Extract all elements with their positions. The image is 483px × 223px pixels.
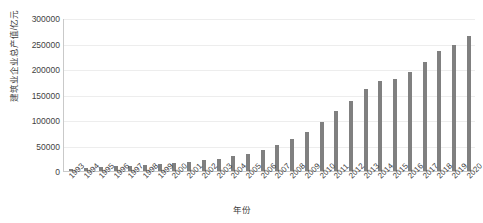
bar-chart: 建筑业企业总产值/亿元 0500001000001500002000002500… <box>0 0 483 223</box>
bar <box>408 72 412 171</box>
bar <box>452 45 456 171</box>
y-tick-label: 300000 <box>14 14 60 24</box>
y-tick-label: 200000 <box>14 65 60 75</box>
y-tick-label: 250000 <box>14 40 60 50</box>
bar <box>393 79 397 171</box>
bar <box>349 101 353 171</box>
y-axis-tick-labels: 050000100000150000200000250000300000 <box>14 0 60 223</box>
bar <box>364 89 368 171</box>
bars-series <box>64 19 475 171</box>
y-tick-label: 150000 <box>14 91 60 101</box>
bar <box>378 81 382 171</box>
plot-area <box>63 19 475 172</box>
y-tick-label: 50000 <box>14 142 60 152</box>
bar <box>467 36 471 171</box>
y-tick-label: 0 <box>14 167 60 177</box>
bar <box>437 51 441 171</box>
y-tick-label: 100000 <box>14 116 60 126</box>
bar <box>423 62 427 171</box>
x-axis-title: 年份 <box>0 203 483 215</box>
bar <box>320 122 324 171</box>
bar <box>334 111 338 171</box>
